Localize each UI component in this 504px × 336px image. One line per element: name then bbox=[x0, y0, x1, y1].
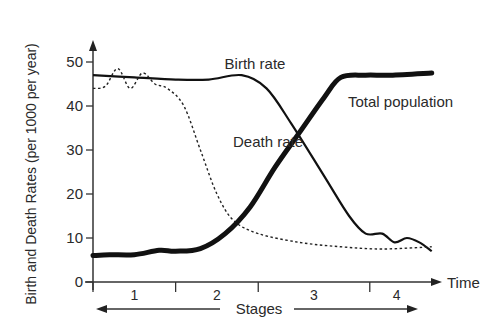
y-ticks: 01020304050 bbox=[66, 53, 93, 290]
stage-label: 2 bbox=[213, 287, 221, 303]
y-tick-label: 50 bbox=[66, 53, 83, 70]
demographic-transition-chart: Time Birth and Death Rates (per 1000 per… bbox=[0, 0, 504, 336]
stages-arrow: Stages bbox=[96, 300, 418, 317]
annotation-birth-rate: Birth rate bbox=[225, 55, 286, 72]
stages-arrow-right-icon bbox=[407, 305, 418, 313]
y-axis-label: Birth and Death Rates (per 1000 per year… bbox=[23, 43, 39, 304]
stages-arrow-left-icon bbox=[96, 305, 107, 313]
annotation-death-rate: Death rate bbox=[233, 133, 303, 150]
annotation-total-population: Total population bbox=[348, 93, 453, 110]
y-axis-arrow-icon bbox=[89, 40, 97, 51]
y-tick-label: 20 bbox=[66, 185, 83, 202]
x-axis-arrow-icon bbox=[431, 278, 442, 286]
y-tick-label: 10 bbox=[66, 229, 83, 246]
stage-label: 3 bbox=[310, 287, 318, 303]
stages-label: Stages bbox=[236, 300, 283, 317]
y-tick-label: 30 bbox=[66, 141, 83, 158]
annotations: Birth rate Death rate Total population bbox=[225, 55, 454, 150]
x-axis-label: Time bbox=[447, 274, 480, 291]
stage-label: 1 bbox=[130, 287, 138, 303]
stage-label: 4 bbox=[393, 287, 401, 303]
axes: Time Birth and Death Rates (per 1000 per… bbox=[23, 40, 480, 305]
y-tick-label: 40 bbox=[66, 97, 83, 114]
y-tick-label: 0 bbox=[75, 273, 83, 290]
